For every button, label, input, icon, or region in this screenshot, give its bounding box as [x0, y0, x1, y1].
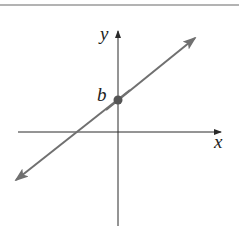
x-axis-label: x: [213, 131, 223, 152]
coordinate-diagram: y b x: [0, 0, 239, 231]
y-axis-label: y: [98, 23, 109, 44]
graph-line-lower: [16, 90, 130, 180]
y-intercept-point: [114, 96, 123, 105]
intercept-label: b: [97, 84, 107, 105]
